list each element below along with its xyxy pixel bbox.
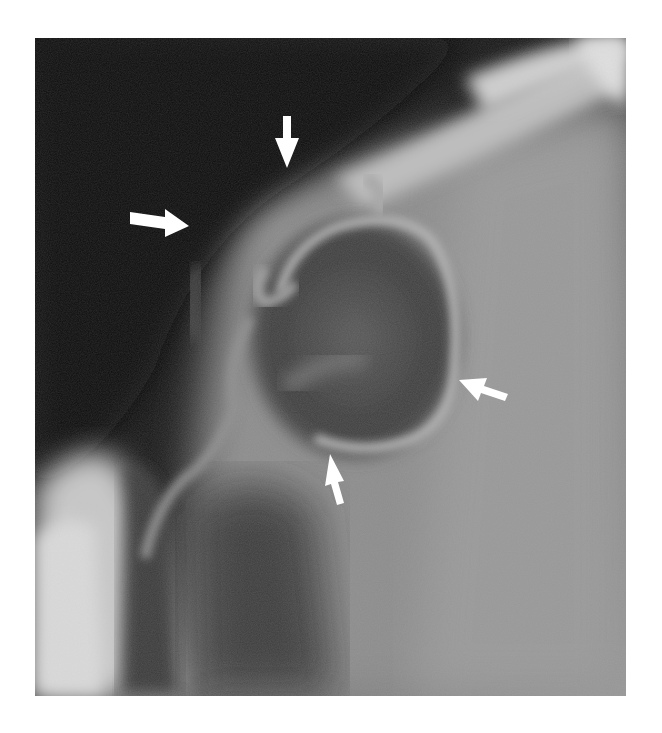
radiograph-image: [35, 38, 626, 696]
film-grain: [35, 38, 626, 696]
radiograph-svg: [35, 38, 626, 696]
